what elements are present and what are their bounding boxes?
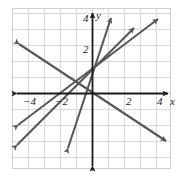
x-tick-label-pos2: 2 [126, 96, 132, 107]
x-tick-label-neg4: −4 [23, 96, 36, 107]
coordinate-plane-figure: −4 −2 2 4 2 4 x y [0, 0, 183, 177]
y-tick-label-pos2: 2 [83, 44, 89, 55]
x-tick-label-neg2: −2 [55, 96, 68, 107]
y-axis-label: y [96, 10, 101, 21]
y-tick-label-pos4: 4 [83, 13, 89, 24]
graph-canvas [0, 0, 183, 177]
x-tick-label-pos4: 4 [157, 96, 163, 107]
plot-background [12, 8, 171, 169]
x-axis-label: x [170, 96, 175, 107]
